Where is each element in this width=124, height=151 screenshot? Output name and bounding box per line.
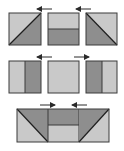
r1-left-panel (9, 13, 41, 45)
r2-middle-panel (48, 61, 79, 93)
r2-left-panel (9, 61, 41, 93)
r1-right-panel (86, 13, 117, 45)
row-1 (9, 9, 117, 45)
r1-middle-panel (48, 13, 79, 45)
row-3 (17, 105, 109, 142)
diagram-canvas (0, 0, 124, 151)
r3-combined-panel (17, 109, 109, 142)
r2-right-panel (86, 61, 117, 93)
row-2 (9, 57, 117, 93)
